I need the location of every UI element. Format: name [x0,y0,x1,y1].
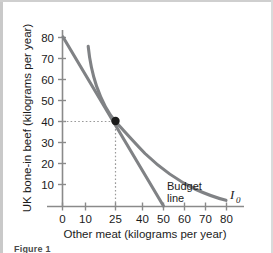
x-tick-label-80: 80 [220,213,233,225]
budget-line-label-line1: Budget [167,180,202,192]
indifference-curve-label-subscript: 0 [236,195,241,205]
y-tick-label-50: 50 [41,95,54,107]
axes-group [47,30,244,207]
indifference-curve-chart: 80 70 60 50 40 30 20 10 0 10 25 40 50 [0,0,273,253]
y-tick-label-20: 20 [41,158,54,170]
y-tick-label-10: 10 [41,179,54,191]
x-tick-label-40: 40 [136,213,149,225]
figure-caption: Figure 1 [14,243,51,253]
indifference-curve-label-letter: I [229,187,235,202]
y-tick-label-70: 70 [41,53,54,65]
y-tick-label-40: 40 [41,116,54,128]
figure-container: 80 70 60 50 40 30 20 10 0 10 25 40 50 [0,0,273,253]
indifference-curve-series [88,46,226,200]
y-tick-label-60: 60 [41,74,54,86]
x-tick-label-70: 70 [199,213,212,225]
x-tick-label-25: 25 [109,213,122,225]
x-tick-label-10: 10 [79,213,92,225]
x-tick-label-0: 0 [59,213,65,225]
x-tick-label-50: 50 [157,213,170,225]
x-axis-title: Other meat (kilograms per year) [64,228,227,240]
guide-lines-group [63,122,116,207]
y-axis-title: UK bone-in beef (kilograms per year) [21,24,33,213]
y-axis-tick-labels: 80 70 60 50 40 30 20 10 [41,32,54,191]
y-tick-label-30: 30 [41,137,54,149]
x-axis-tick-labels: 0 10 25 40 50 60 70 80 [59,213,233,225]
y-tick-label-80: 80 [41,32,54,44]
indifference-curve-label: I 0 [229,187,241,205]
budget-line-annotation: Budget line [167,180,202,204]
x-tick-label-60: 60 [178,213,191,225]
budget-line-label-line2: line [167,192,184,204]
optimum-point-marker [111,117,119,125]
